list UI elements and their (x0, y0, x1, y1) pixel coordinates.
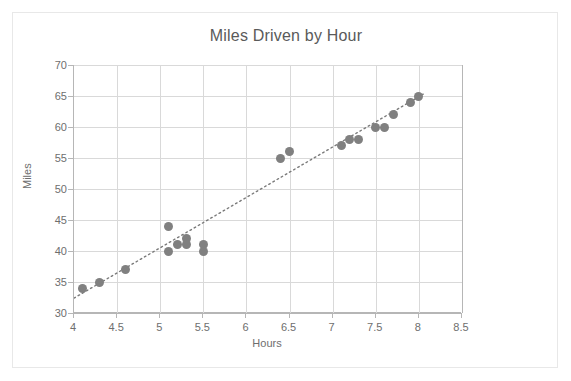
data-point (371, 123, 380, 132)
data-point (337, 141, 346, 150)
x-axis-tick-label: 5.5 (182, 321, 222, 333)
data-point (414, 92, 423, 101)
y-axis-tick-label: 30 (33, 307, 67, 319)
data-point (173, 240, 182, 249)
y-axis-tick-label: 40 (33, 245, 67, 257)
y-axis-tick-label: 70 (33, 59, 67, 71)
y-axis-tick-label: 55 (33, 152, 67, 164)
gridline-horizontal (74, 65, 462, 66)
data-point (95, 278, 104, 287)
data-point (78, 284, 87, 293)
gridline-horizontal (74, 220, 462, 221)
x-axis-tick-label: 6.5 (269, 321, 309, 333)
y-axis-label: Miles (21, 163, 33, 189)
data-point (121, 265, 130, 274)
gridline-horizontal (74, 282, 462, 283)
x-axis-tick-label: 5 (139, 321, 179, 333)
data-point (276, 154, 285, 163)
plot-area (73, 65, 461, 313)
y-axis-tick-label: 35 (33, 276, 67, 288)
gridline-vertical (376, 65, 377, 313)
chart-container: Miles Driven by Hour Miles Hours 3035404… (12, 12, 558, 368)
y-axis-tick-label: 60 (33, 121, 67, 133)
gridline-horizontal (74, 313, 462, 314)
data-point (164, 247, 173, 256)
gridline-horizontal (74, 127, 462, 128)
gridline-vertical (462, 65, 463, 313)
data-point (285, 147, 294, 156)
x-axis-tick-label: 4 (53, 321, 93, 333)
data-point (354, 135, 363, 144)
x-axis-tick-label: 8 (398, 321, 438, 333)
chart-title: Miles Driven by Hour (13, 27, 559, 45)
x-axis-tick-label: 6 (225, 321, 265, 333)
data-point (182, 240, 191, 249)
gridline-horizontal (74, 158, 462, 159)
y-axis-tick-label: 50 (33, 183, 67, 195)
data-point (389, 110, 398, 119)
data-point (406, 98, 415, 107)
x-axis-tick-label: 8.5 (441, 321, 481, 333)
data-point (380, 123, 389, 132)
y-axis-tick-label: 45 (33, 214, 67, 226)
gridline-horizontal (74, 189, 462, 190)
gridline-vertical (160, 65, 161, 313)
gridline-vertical (246, 65, 247, 313)
x-axis-tick-label: 4.5 (96, 321, 136, 333)
gridline-horizontal (74, 96, 462, 97)
x-axis-tick-label: 7 (312, 321, 352, 333)
gridline-vertical (290, 65, 291, 313)
x-axis-tick-label: 7.5 (355, 321, 395, 333)
gridline-vertical (419, 65, 420, 313)
data-point (199, 247, 208, 256)
gridline-vertical (333, 65, 334, 313)
gridline-vertical (117, 65, 118, 313)
x-axis-label: Hours (73, 337, 461, 349)
gridline-horizontal (74, 251, 462, 252)
y-axis-tick-label: 65 (33, 90, 67, 102)
gridline-vertical (203, 65, 204, 313)
data-point (164, 222, 173, 231)
